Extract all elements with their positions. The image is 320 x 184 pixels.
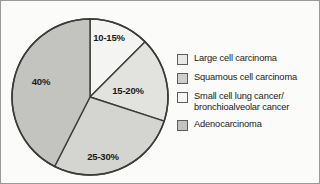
legend-swatch-small-cell-lung-cancer	[177, 92, 188, 103]
legend-item-small-cell-lung-cancer[interactable]: Small cell lung cancer/ bronchioalveolar…	[177, 91, 313, 112]
pie-label-small-cell-lung-cancer: 10-15%	[93, 32, 125, 43]
legend-item-large-cell-carcinoma[interactable]: Large cell carcinoma	[177, 53, 313, 65]
pie-chart-svg: 10-15% 15-20% 25-30% 40%	[10, 17, 170, 177]
legend-swatch-large-cell-carcinoma	[177, 54, 188, 65]
legend-item-squamous-cell-carcinoma[interactable]: Squamous cell carcinoma	[177, 72, 313, 84]
pie-chart-figure: 10-15% 15-20% 25-30% 40% Large cell carc…	[0, 0, 320, 184]
legend-label-squamous-cell-carcinoma: Squamous cell carcinoma	[194, 72, 297, 83]
pie-chart: 10-15% 15-20% 25-30% 40%	[10, 17, 170, 177]
pie-label-large-cell-carcinoma: 15-20%	[112, 85, 144, 96]
legend-label-small-cell-lung-cancer: Small cell lung cancer/ bronchioalveolar…	[194, 91, 289, 112]
legend-swatch-squamous-cell-carcinoma	[177, 73, 188, 84]
legend: Large cell carcinoma Squamous cell carci…	[177, 53, 313, 138]
legend-item-adenocarcinoma[interactable]: Adenocarcinoma	[177, 119, 313, 131]
legend-label-adenocarcinoma: Adenocarcinoma	[194, 119, 262, 130]
legend-label-large-cell-carcinoma: Large cell carcinoma	[194, 53, 277, 64]
pie-label-adenocarcinoma: 40%	[32, 76, 51, 87]
pie-label-squamous-cell-carcinoma: 25-30%	[87, 151, 119, 162]
legend-swatch-adenocarcinoma	[177, 120, 188, 131]
